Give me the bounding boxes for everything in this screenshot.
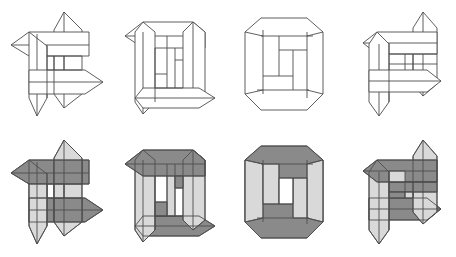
figure-r1c1-drawing bbox=[7, 8, 107, 120]
bar-right-vertical-light bbox=[307, 160, 323, 222]
figure-r1c4-drawing bbox=[349, 8, 449, 120]
figure-r2c1-drawing bbox=[7, 136, 107, 248]
bars-group bbox=[11, 12, 103, 116]
inner-dark-a bbox=[155, 202, 167, 216]
outer-octagon bbox=[245, 18, 323, 110]
figure-r1c4 bbox=[342, 0, 456, 128]
inner-dark-b bbox=[389, 192, 405, 198]
figure-r2c3-drawing bbox=[235, 136, 335, 248]
inner-light-a bbox=[29, 184, 47, 198]
bar-left-horizontal bbox=[11, 32, 89, 56]
bars-group bbox=[363, 140, 441, 244]
figure-r1c3 bbox=[228, 0, 342, 128]
inner-dark-a bbox=[54, 160, 82, 184]
figure-r1c2-drawing bbox=[121, 8, 221, 120]
figure-r2c2-drawing bbox=[121, 136, 221, 248]
figure-r2c4 bbox=[342, 128, 456, 256]
bars-group bbox=[125, 150, 215, 242]
inner-light-a bbox=[389, 171, 405, 182]
bar-left-inner-light bbox=[263, 164, 279, 204]
figure-r2c2 bbox=[114, 128, 228, 256]
bars-group bbox=[363, 12, 441, 116]
figure-r1c2 bbox=[114, 0, 228, 128]
figure-r2c4-drawing bbox=[349, 136, 449, 248]
bar-right-inner-light bbox=[293, 178, 307, 218]
bars-group bbox=[245, 146, 323, 238]
inner-dark-b bbox=[175, 176, 183, 188]
bar-left-vertical-light bbox=[245, 160, 263, 222]
center-hole bbox=[279, 178, 293, 204]
figure-r1c1 bbox=[0, 0, 114, 128]
figure-r2c3 bbox=[228, 128, 342, 256]
bars-group bbox=[245, 18, 323, 110]
figure-r1c3-drawing bbox=[235, 8, 335, 120]
bars-group bbox=[11, 140, 103, 244]
inner-light-b bbox=[405, 192, 413, 198]
inner-light-b bbox=[54, 184, 64, 198]
bars-group bbox=[125, 22, 215, 114]
figure-r2c1 bbox=[0, 128, 114, 256]
figure-grid bbox=[0, 0, 456, 257]
